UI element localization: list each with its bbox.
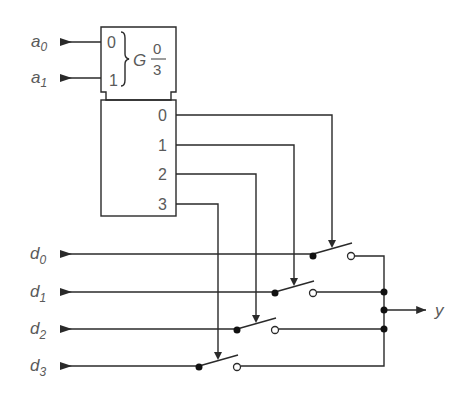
range-top: 0 [153,40,161,57]
brace-icon [121,32,129,86]
select-line-0 [176,115,332,243]
switch-0-out [241,256,384,366]
select-line-1 [176,145,294,281]
mux-diagram: a0 a1 0 1 G 0 3 0 1 2 3 d0 d1 d2 d3 y [0,0,476,401]
select-line-2 [176,174,256,318]
decoder-output-2: 2 [158,166,167,183]
control-pin-1: 1 [109,72,118,89]
decoder-output-1: 1 [158,137,167,154]
d1-label: d1 [30,282,46,305]
d2-label: d2 [30,319,46,342]
output-label: y [434,301,445,320]
decoder-output-3: 3 [158,196,167,213]
qualifier-label: G [133,51,146,70]
d3-label: d3 [30,356,46,379]
a1-label: a1 [31,68,47,90]
switch-contacts [196,253,388,371]
control-pin-0: 0 [107,34,116,51]
d0-label: d0 [30,244,46,267]
decoder-output-0: 0 [158,107,167,124]
select-line-3 [176,204,218,355]
range-bottom: 3 [153,61,161,78]
a0-label: a0 [31,32,47,54]
